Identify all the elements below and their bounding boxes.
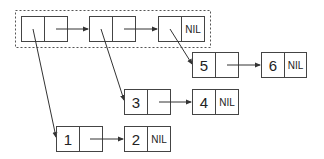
outer-node-3: NIL	[159, 17, 205, 42]
svg-text:3: 3	[132, 94, 140, 111]
svg-text:NIL: NIL	[219, 97, 235, 108]
nil-label: NIL	[185, 24, 201, 35]
svg-text:1: 1	[64, 131, 72, 148]
pointer-arrow	[33, 29, 56, 137]
svg-text:NIL: NIL	[288, 60, 304, 71]
svg-text:6: 6	[269, 57, 277, 74]
node-2: 2 NIL	[125, 127, 171, 152]
svg-text:NIL: NIL	[151, 134, 167, 145]
svg-text:2: 2	[132, 131, 140, 148]
linked-list-diagram: NIL 5 6 NIL 3 4 NIL 1 2	[0, 0, 324, 159]
svg-text:4: 4	[200, 94, 208, 111]
node-6: 6 NIL	[262, 53, 307, 78]
node-4: 4 NIL	[193, 90, 239, 115]
svg-text:5: 5	[200, 57, 208, 74]
